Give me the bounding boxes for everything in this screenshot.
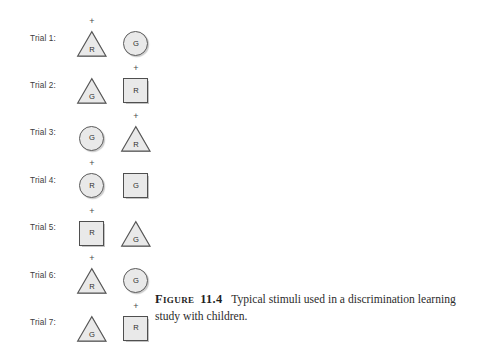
shape-wrapper: G xyxy=(77,77,107,105)
triangle-icon xyxy=(76,77,108,105)
caption-figure-word: Figure xyxy=(155,292,194,306)
trial-label: Trial 7: xyxy=(0,318,56,327)
stimulus-triangle[interactable]: G xyxy=(70,303,114,343)
stimulus-pair: +RG xyxy=(70,18,158,58)
figure-caption: Figure 11.4 Typical stimuli used in a di… xyxy=(155,291,471,325)
stimulus-square[interactable]: +R xyxy=(70,208,114,248)
stimulus-circle[interactable]: G xyxy=(114,18,158,58)
caption-figure-number: 11.4 xyxy=(200,292,222,306)
trial-row: Trial 6:+RG xyxy=(0,253,170,297)
trial-row: Trial 5:+RG xyxy=(0,206,170,250)
shape-wrapper: G xyxy=(121,172,151,200)
trial-label: Trial 1: xyxy=(0,34,56,43)
shape-wrapper: R xyxy=(121,315,151,343)
reinforcement-plus-marker: + xyxy=(133,302,138,311)
square-icon xyxy=(123,78,148,103)
trial-row: Trial 2:G+R xyxy=(0,63,170,107)
shape-wrapper: G xyxy=(121,30,151,58)
trial-label: Trial 5: xyxy=(0,223,56,232)
shape-wrapper: G xyxy=(77,315,107,343)
stimulus-pair: +RG xyxy=(70,160,158,200)
reinforcement-plus-marker: + xyxy=(89,159,94,168)
stimulus-triangle[interactable]: +R xyxy=(114,113,158,153)
triangle-icon xyxy=(76,30,108,58)
figure-container: Trial 1:+RGTrial 2:G+RTrial 3:G+RTrial 4… xyxy=(0,0,479,348)
shape-wrapper: G xyxy=(121,220,151,248)
trial-row: Trial 7:G+R xyxy=(0,301,170,345)
square-icon xyxy=(123,316,148,341)
reinforcement-plus-marker: + xyxy=(89,207,94,216)
trial-label: Trial 4: xyxy=(0,176,56,185)
stimulus-triangle[interactable]: G xyxy=(114,208,158,248)
stimulus-triangle[interactable]: G xyxy=(70,65,114,105)
stimulus-pair: +RG xyxy=(70,255,158,295)
stimulus-pair: +RG xyxy=(70,208,158,248)
square-icon xyxy=(123,173,148,198)
triangle-icon xyxy=(120,220,152,248)
trial-row: Trial 4:+RG xyxy=(0,158,170,202)
stimulus-circle[interactable]: +R xyxy=(70,160,114,200)
square-icon xyxy=(79,221,104,246)
shape-wrapper: R xyxy=(77,267,107,295)
shape-wrapper: G xyxy=(121,267,151,295)
circle-icon xyxy=(123,268,148,293)
shape-wrapper: R xyxy=(77,30,107,58)
stimulus-triangle[interactable]: +R xyxy=(70,255,114,295)
reinforcement-plus-marker: + xyxy=(133,112,138,121)
stimulus-square[interactable]: G xyxy=(114,160,158,200)
triangle-icon xyxy=(76,267,108,295)
stimulus-square[interactable]: +R xyxy=(114,65,158,105)
triangle-icon xyxy=(120,125,152,153)
trial-row: Trial 1:+RG xyxy=(0,16,170,60)
shape-wrapper: G xyxy=(77,125,107,153)
shape-wrapper: R xyxy=(77,172,107,200)
trial-label: Trial 3: xyxy=(0,128,56,137)
reinforcement-plus-marker: + xyxy=(89,17,94,26)
reinforcement-plus-marker: + xyxy=(89,254,94,263)
shape-wrapper: R xyxy=(121,125,151,153)
stimulus-square[interactable]: +R xyxy=(114,303,158,343)
stimulus-circle[interactable]: G xyxy=(70,113,114,153)
trial-row: Trial 3:G+R xyxy=(0,111,170,155)
shape-wrapper: R xyxy=(77,220,107,248)
stimulus-circle[interactable]: G xyxy=(114,255,158,295)
stimulus-pair: G+R xyxy=(70,303,158,343)
stimulus-pair: G+R xyxy=(70,65,158,105)
circle-icon xyxy=(79,173,104,198)
circle-icon xyxy=(79,126,104,151)
triangle-icon xyxy=(76,315,108,343)
circle-icon xyxy=(123,31,148,56)
stimulus-triangle[interactable]: +R xyxy=(70,18,114,58)
trial-label: Trial 2: xyxy=(0,81,56,90)
stimulus-pair: G+R xyxy=(70,113,158,153)
reinforcement-plus-marker: + xyxy=(133,64,138,73)
shape-wrapper: R xyxy=(121,77,151,105)
trial-label: Trial 6: xyxy=(0,271,56,280)
